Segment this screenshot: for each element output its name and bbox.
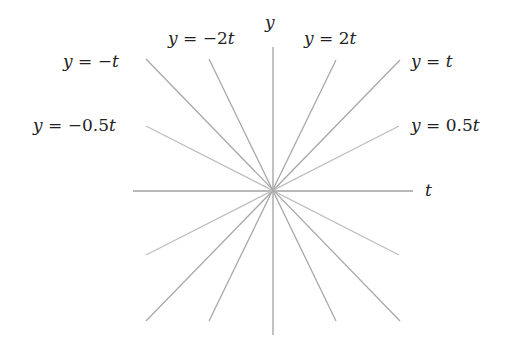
t-axis-label: t bbox=[425, 182, 432, 199]
label-y-eq-neg-2t: y = −2t bbox=[168, 30, 235, 47]
label-y-eq-neg-t: y = −t bbox=[63, 53, 119, 70]
label-y-eq-2t: y = 2t bbox=[304, 30, 356, 47]
label-y-eq-neg-0-5t: y = −0.5t bbox=[33, 117, 116, 134]
y-axis-label: y bbox=[265, 14, 275, 31]
label-y-eq-0-5t: y = 0.5t bbox=[411, 117, 480, 134]
label-y-eq-t: y = t bbox=[411, 53, 453, 70]
